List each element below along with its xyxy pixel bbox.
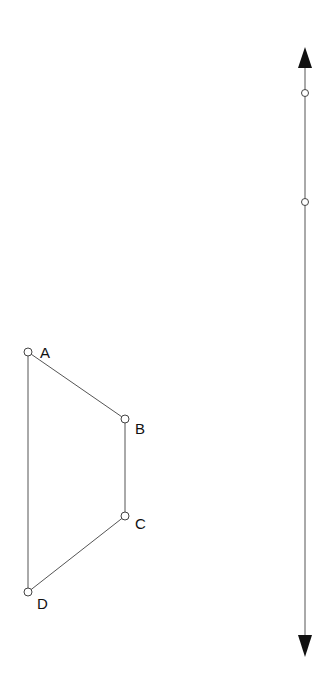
point-b[interactable] <box>121 415 129 423</box>
arrow-up-icon <box>298 47 312 68</box>
segment-ab[interactable] <box>28 352 125 419</box>
line-point-2[interactable] <box>302 199 309 206</box>
geometry-canvas: A B C D <box>0 0 330 695</box>
label-c: C <box>135 515 146 532</box>
arrow-down-icon <box>298 635 312 657</box>
label-d: D <box>37 595 48 612</box>
point-c[interactable] <box>121 512 129 520</box>
line-point-1[interactable] <box>302 90 309 97</box>
segment-cd[interactable] <box>28 516 125 592</box>
point-a[interactable] <box>24 348 32 356</box>
point-d[interactable] <box>24 588 32 596</box>
label-b: B <box>135 420 145 437</box>
label-a: A <box>40 344 50 361</box>
